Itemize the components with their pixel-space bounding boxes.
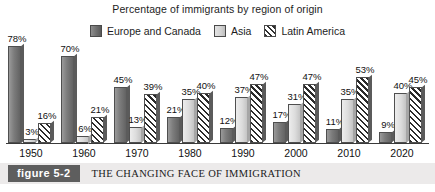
bar-2020-latin-america[interactable]: 45% [409, 43, 426, 143]
legend-label-latin-america: Latin America [281, 25, 345, 37]
latin-america-swatch-icon [264, 25, 276, 37]
legend-label-europe-and-canada: Europe and Canada [107, 25, 201, 37]
figure-caption-band: figure 5-2 THE CHANGING FACE OF IMMIGRAT… [0, 163, 435, 184]
legend-item-latin-america: Latin America [264, 25, 345, 37]
x-axis-label-2020: 2020 [370, 147, 434, 159]
bar-1990-latin-america[interactable]: 47% [250, 43, 267, 143]
bar-value-label: 78% [5, 33, 29, 44]
figure-container: Percentage of immigrants by region of or… [0, 0, 435, 192]
x-axis-line [6, 143, 429, 144]
bar-value-label: 16% [35, 110, 59, 121]
bar-rect [250, 84, 263, 143]
bar-rect [356, 77, 369, 143]
bar-1960-latin-america[interactable]: 21% [91, 43, 108, 143]
bar-value-label: 21% [88, 104, 112, 115]
bar-rect [167, 117, 180, 143]
plot-area: 78%3%16%195070%6%21%196045%13%39%197021%… [6, 44, 429, 144]
figure-caption-text: THE CHANGING FACE OF IMMIGRATION [92, 168, 301, 179]
legend-item-europe-and-canada: Europe and Canada [90, 25, 201, 37]
bar-rect [76, 136, 89, 144]
bar-1950-latin-america[interactable]: 16% [38, 43, 55, 143]
legend-item-asia: Asia [214, 25, 251, 37]
bar-rect [235, 97, 248, 143]
bar-rect [273, 122, 286, 143]
bar-rect [23, 139, 36, 143]
europe-swatch-icon [90, 25, 102, 37]
bar-rect [326, 129, 339, 143]
figure-number-badge: figure 5-2 [8, 165, 80, 182]
bar-rect [394, 93, 407, 143]
bar-rect [182, 99, 195, 143]
legend-label-asia: Asia [231, 25, 251, 37]
bar-value-label: 53% [353, 64, 377, 75]
bar-rect [288, 104, 301, 143]
bar-value-label: 47% [247, 71, 271, 82]
bar-rect [341, 99, 354, 143]
bar-2010-latin-america[interactable]: 53% [356, 43, 373, 143]
chart-legend: Europe and Canada Asia Latin America [0, 25, 435, 37]
bar-rect [197, 93, 210, 143]
bar-value-label: 47% [300, 71, 324, 82]
bar-rect [144, 94, 157, 143]
bar-1980-latin-america[interactable]: 40% [197, 43, 214, 143]
bar-value-label: 45% [406, 74, 430, 85]
bar-rect [38, 123, 51, 143]
bar-rect [129, 127, 142, 143]
bar-rect [379, 132, 392, 143]
bar-1970-latin-america[interactable]: 39% [144, 43, 161, 143]
bar-rect [91, 117, 104, 143]
chart-title: Percentage of immigrants by region of or… [0, 3, 435, 15]
bar-rect [303, 84, 316, 143]
bar-rect [409, 87, 422, 143]
bar-value-label: 39% [141, 81, 165, 92]
bar-rect [220, 128, 233, 143]
asia-swatch-icon [214, 25, 226, 37]
bar-2000-latin-america[interactable]: 47% [303, 43, 320, 143]
bar-value-label: 40% [194, 80, 218, 91]
